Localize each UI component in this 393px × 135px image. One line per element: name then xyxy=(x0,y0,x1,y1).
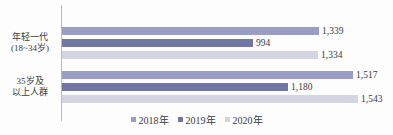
legend-label: 2018年 xyxy=(139,112,169,127)
grouped-bar-chart: 年轻一代(18~34岁)1,3399941,33435岁及以上人群1,5171,… xyxy=(0,0,393,135)
bar-value-label: 1,517 xyxy=(356,70,377,80)
category-label: 年轻一代(18~34岁) xyxy=(0,32,60,54)
legend-item: 2019年 xyxy=(178,112,216,127)
bar-value-label: 1,543 xyxy=(361,94,382,104)
bar-value-label: 1,180 xyxy=(291,82,312,92)
category-label-line: 以上人群 xyxy=(0,87,60,98)
legend: 2018年2019年2020年 xyxy=(0,112,393,127)
legend-item: 2020年 xyxy=(225,112,263,127)
category-label: 35岁及以上人群 xyxy=(0,76,60,98)
bar-value-label: 1,339 xyxy=(322,26,343,36)
bar-2019年-group1 xyxy=(62,39,253,47)
category-label-line: 年轻一代 xyxy=(0,32,60,43)
bar-value-label: 994 xyxy=(256,38,270,48)
category-label-line: 35岁及 xyxy=(0,76,60,87)
y-axis-line xyxy=(61,5,62,121)
legend-swatch xyxy=(225,117,230,122)
bar-value-label: 1,334 xyxy=(321,50,342,60)
legend-swatch xyxy=(131,117,136,122)
bar-2018年-group1 xyxy=(62,27,319,35)
bar-2020年-group1 xyxy=(62,51,318,59)
legend-label: 2020年 xyxy=(233,112,263,127)
bar-2018年-group2 xyxy=(62,71,353,79)
category-label-line: (18~34岁) xyxy=(0,43,60,54)
legend-label: 2019年 xyxy=(186,112,216,127)
bar-2020年-group2 xyxy=(62,95,358,103)
bar-2019年-group2 xyxy=(62,83,288,91)
legend-swatch xyxy=(178,117,183,122)
legend-item: 2018年 xyxy=(131,112,169,127)
